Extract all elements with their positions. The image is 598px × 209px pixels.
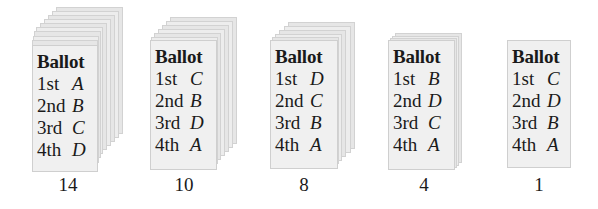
rank-label: 4th xyxy=(512,134,547,156)
ranking-row: 2ndD xyxy=(512,90,570,112)
candidate: C xyxy=(547,68,560,89)
ranking-row: 3rdB xyxy=(512,112,570,134)
ballot-title: Ballot xyxy=(512,46,570,68)
ballot-card: Ballot 1stC 2ndD 3rdB 4thA xyxy=(507,40,571,168)
ranking-row: 4thA xyxy=(512,134,570,156)
rank-label: 2nd xyxy=(512,90,547,112)
ballot-count: 1 xyxy=(509,174,569,196)
rank-label: 1st xyxy=(512,68,547,90)
candidate: D xyxy=(547,90,561,111)
candidate: A xyxy=(547,134,559,155)
candidate: B xyxy=(547,112,559,133)
ballot-stack-5: Ballot 1stC 2ndD 3rdB 4thA 1 xyxy=(0,0,598,200)
rank-label: 3rd xyxy=(512,112,547,134)
ranking-row: 1stC xyxy=(512,68,570,90)
